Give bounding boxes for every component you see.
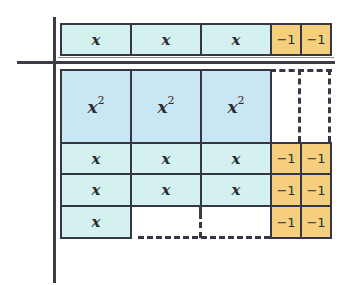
x-tile: x [200, 142, 272, 175]
x-tile: x [60, 23, 132, 56]
neg-one-tile: −1 [300, 142, 332, 175]
dashed-outline [328, 69, 331, 142]
x-tile: x [60, 142, 132, 175]
neg-one-tile: −1 [270, 142, 302, 175]
horizontal-axis [17, 61, 335, 64]
x-tile: x [130, 142, 202, 175]
x-tile: x [200, 23, 272, 56]
x-tile: x [200, 173, 272, 207]
neg-one-tile: −1 [270, 205, 302, 239]
neg-one-tile: −1 [270, 173, 302, 207]
neg-one-tile: −1 [300, 205, 332, 239]
x-squared-tile: x2 [130, 69, 202, 144]
dashed-outline [270, 69, 332, 72]
x-tile: x [60, 205, 132, 239]
dashed-outline [138, 236, 270, 239]
dashed-outline [199, 222, 202, 238]
dashed-outline [298, 69, 301, 142]
x-tile: x [60, 173, 132, 207]
x-tile: x [130, 173, 202, 207]
x-tile: x [130, 23, 202, 56]
neg-one-tile: −1 [270, 23, 302, 56]
top-row-underline [58, 57, 334, 58]
neg-one-tile: −1 [300, 23, 332, 56]
vertical-axis [53, 17, 56, 283]
x-squared-tile: x2 [200, 69, 272, 144]
x-squared-tile: x2 [60, 69, 132, 144]
neg-one-tile: −1 [300, 173, 332, 207]
solid-divider [199, 205, 202, 219]
